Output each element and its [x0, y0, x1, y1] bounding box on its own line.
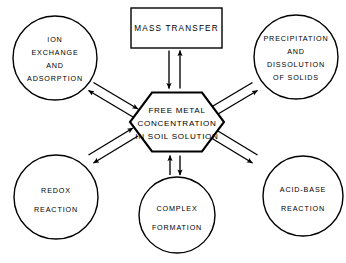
node-mass-transfer-box[interactable]: MASS TRANSFER — [131, 8, 222, 48]
precipitation-label-line-1: PRECIPITATION — [263, 34, 328, 43]
precipitation-label-line-4: OF SOLIDS — [273, 73, 319, 82]
node-precipitation-and-dissolution-of-solids[interactable]: PRECIPITATION AND DISSOLUTION OF SOLIDS — [254, 15, 338, 99]
connector-complex-formation — [170, 156, 180, 176]
hexagon-label-line-3: IN SOIL SOLUTION — [135, 132, 218, 141]
redox-label-line-1: REDOX — [41, 186, 71, 195]
complex-formation-label-line-1: COMPLEX — [156, 204, 197, 213]
acid-base-label-line-1: ACID-BASE — [280, 185, 326, 194]
precipitation-label-line-3: DISSOLUTION — [267, 60, 325, 69]
connector-ion-exchange — [89, 83, 139, 118]
connector-mass-transfer — [169, 51, 180, 89]
ion-exchange-label-line-3: AND — [46, 61, 64, 70]
node-redox-reaction[interactable]: REDOX REACTION — [14, 155, 98, 239]
node-ion-exchange-and-adsorption[interactable]: ION EXCHANGE AND ADSORPTION — [13, 16, 97, 100]
diagram-svg: MASS TRANSFER FREE METAL CONCENTRATION I… — [0, 0, 346, 263]
complex-formation-label-line-2: FORMATION — [152, 223, 202, 232]
acid-base-label-line-2: REACTION — [281, 204, 325, 213]
precipitation-label-line-2: AND — [287, 47, 305, 56]
connector-redox — [89, 128, 139, 163]
hexagon-label-line-1: FREE METAL — [148, 106, 205, 115]
node-acid-base-reaction[interactable]: ACID-BASE REACTION — [263, 156, 343, 236]
node-center-hexagon[interactable]: FREE METAL CONCENTRATION IN SOIL SOLUTIO… — [130, 93, 224, 152]
ion-exchange-label-line-4: ADSORPTION — [27, 74, 83, 83]
redox-label-line-2: REACTION — [34, 205, 78, 214]
hexagon-label-line-2: CONCENTRATION — [137, 119, 216, 128]
ion-exchange-label-line-2: EXCHANGE — [31, 48, 78, 57]
node-complex-formation[interactable]: COMPLEX FORMATION — [139, 177, 215, 253]
mass-transfer-label: MASS TRANSFER — [134, 24, 218, 33]
diagram-canvas: MASS TRANSFER FREE METAL CONCENTRATION I… — [0, 0, 346, 263]
ion-exchange-label-line-1: ION — [47, 35, 62, 44]
